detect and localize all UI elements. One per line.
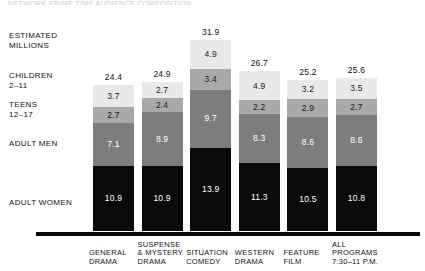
bar-segment-children[interactable]: 3.5 — [336, 78, 377, 99]
bar-segment-value: 2.7 — [156, 86, 168, 95]
bar-segment-value: 3.4 — [204, 75, 216, 84]
bar-segment-adult-women[interactable]: 10.9 — [93, 166, 134, 231]
bar-segment-teens[interactable]: 3.4 — [190, 69, 231, 89]
bar-segment-adult-men[interactable]: 8.6 — [336, 115, 377, 166]
bar-segment-adult-men[interactable]: 8.9 — [142, 112, 183, 165]
bar-segment-children[interactable]: 2.7 — [142, 82, 183, 98]
bar-stack: 4.92.28.311.3 — [239, 71, 280, 231]
bar-stack: 3.72.77.110.9 — [93, 85, 134, 231]
bar-segment-children[interactable]: 4.9 — [239, 71, 280, 100]
bar-segment-value: 7.1 — [107, 140, 119, 149]
bar-segment-teens[interactable]: 2.7 — [93, 107, 134, 123]
bar-segment-value: 4.9 — [204, 50, 216, 59]
bar-segment-value: 11.3 — [251, 193, 268, 202]
bar-segment-value: 3.7 — [107, 92, 119, 101]
bar-segment-children[interactable]: 4.9 — [190, 40, 231, 69]
bar-segment-value: 10.9 — [153, 194, 170, 203]
bar-segment-adult-women[interactable]: 10.5 — [287, 168, 328, 231]
bar-stack: 3.52.78.610.8 — [336, 78, 377, 231]
bar-segment-value: 13.9 — [202, 185, 219, 194]
bar-total-label: 25.2 — [287, 67, 328, 77]
bar-total-label: 31.9 — [190, 27, 231, 37]
bar-segment-value: 10.9 — [105, 194, 122, 203]
bar-segment-adult-men[interactable]: 9.7 — [190, 90, 231, 148]
bar-segment-children[interactable]: 3.2 — [287, 80, 328, 99]
bar-segment-value: 10.5 — [299, 195, 316, 204]
plot-area: 24.43.72.77.110.9GENERAL DRAMA24.92.72.4… — [0, 0, 425, 271]
bar-segment-value: 9.7 — [204, 114, 216, 123]
chart-page: NETWORK PRIME TIME AUDIENCE COMPOSITION … — [0, 0, 425, 271]
bar-segment-adult-women[interactable]: 11.3 — [239, 163, 280, 231]
bar-segment-value: 3.5 — [350, 84, 362, 93]
bar-segment-value: 4.9 — [253, 82, 265, 91]
bar-segment-value: 8.6 — [302, 138, 314, 147]
bar-stack: 4.93.49.713.9 — [190, 40, 231, 231]
bar-total-label: 26.7 — [239, 58, 280, 68]
bar-segment-value: 8.3 — [253, 134, 265, 143]
bar-segment-adult-women[interactable]: 10.8 — [336, 166, 377, 231]
x-axis-category-label: ALL PROGRAMS 7:30–11 P.M. — [332, 241, 390, 267]
x-axis-baseline — [36, 232, 420, 236]
bar-segment-value: 2.7 — [107, 111, 119, 120]
bar-stack: 3.22.98.610.5 — [287, 80, 328, 231]
bar-segment-adult-women[interactable]: 10.9 — [142, 166, 183, 231]
bar-segment-value: 2.2 — [253, 103, 265, 112]
bar-segment-value: 8.6 — [350, 136, 362, 145]
bar-total-label: 25.6 — [336, 65, 377, 75]
bar-segment-adult-men[interactable]: 7.1 — [93, 123, 134, 166]
bar-segment-value: 10.8 — [348, 194, 365, 203]
bar-segment-adult-men[interactable]: 8.3 — [239, 114, 280, 164]
bar-segment-teens[interactable]: 2.4 — [142, 98, 183, 112]
bar-segment-value: 2.4 — [156, 101, 168, 110]
bar-segment-children[interactable]: 3.7 — [93, 85, 134, 107]
bar-segment-teens[interactable]: 2.2 — [239, 100, 280, 113]
bar-segment-teens[interactable]: 2.9 — [287, 99, 328, 116]
bar-segment-adult-men[interactable]: 8.6 — [287, 117, 328, 168]
bar-segment-value: 2.9 — [302, 104, 314, 113]
bar-segment-teens[interactable]: 2.7 — [336, 99, 377, 115]
bar-total-label: 24.4 — [93, 72, 134, 82]
bar-segment-value: 2.7 — [350, 103, 362, 112]
bar-total-label: 24.9 — [142, 69, 183, 79]
bar-segment-value: 3.2 — [302, 85, 314, 94]
bar-stack: 2.72.48.910.9 — [142, 82, 183, 231]
bar-segment-adult-women[interactable]: 13.9 — [190, 148, 231, 231]
bar-segment-value: 8.9 — [156, 135, 168, 144]
